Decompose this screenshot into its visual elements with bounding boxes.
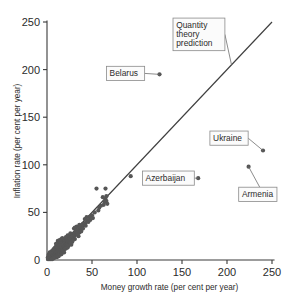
x-tick-label: 150 [173,266,191,278]
data-point [77,223,81,227]
callout-label: Ukraine [213,133,242,143]
data-point [99,204,103,208]
y-tick-label: 50 [28,206,40,218]
y-tick-label: 200 [22,64,40,76]
data-point [84,224,88,228]
data-point [91,216,95,220]
callout-leader-line [249,167,260,188]
data-point [103,187,107,191]
data-point [60,236,64,240]
y-tick-label: 250 [22,16,40,28]
data-point [104,194,108,198]
x-axis: 050100150200250 Money growth rate (per c… [44,260,281,292]
callout-label: prediction [176,38,213,48]
y-axis-title: Inflation rate (per cent per year) [13,83,22,198]
chart-figure: 050100150200250 Inflation rate (per cent… [0,0,300,298]
y-tick-label: 0 [34,254,40,266]
data-point [50,257,54,261]
data-point [66,246,70,250]
data-point [105,202,109,206]
y-axis-ticks: 050100150200250 [22,16,47,266]
x-tick-label: 50 [86,266,98,278]
data-point [85,215,89,219]
callout-label: Belarus [110,68,138,78]
data-point [76,232,80,236]
scatter-plot: 050100150200250 Inflation rate (per cent… [0,0,300,298]
data-point [51,247,55,251]
callout-leader-line [248,138,263,150]
x-tick-label: 0 [44,266,50,278]
data-point [94,187,98,191]
data-point [68,231,72,235]
x-axis-ticks: 050100150200250 [44,260,281,278]
callout-leader-line [145,73,160,74]
data-points [46,72,265,261]
x-tick-label: 200 [218,266,236,278]
callout-leader-line [225,34,232,64]
callout-label: Azerbaijan [146,173,186,183]
x-axis-title: Money growth rate (per cent per year) [101,283,239,292]
data-point [96,208,100,212]
data-point [101,195,105,199]
data-point [71,238,75,242]
data-point [129,174,133,178]
callout-label: Armenia [242,189,274,199]
y-tick-label: 100 [22,159,40,171]
data-point [247,165,251,169]
x-tick-label: 250 [263,266,281,278]
y-tick-label: 150 [22,111,40,123]
annotation-callouts: BelarusUkraineArmeniaAzerbaijanQuantityt… [106,18,277,201]
data-point [75,228,79,232]
x-tick-label: 100 [128,266,146,278]
y-axis: 050100150200250 Inflation rate (per cent… [13,16,47,266]
